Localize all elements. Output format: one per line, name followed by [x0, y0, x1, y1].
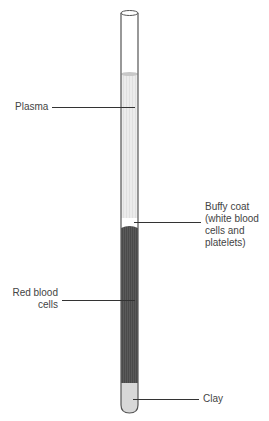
- red-blood-cells-label: Red blood cells: [12, 287, 58, 311]
- plasma-leader-line: [52, 107, 135, 108]
- clay-leader-line: [133, 399, 199, 400]
- red-blood-cells-layer: [121, 226, 138, 383]
- tube-empty-section: [121, 13, 138, 74]
- tube-opening: [121, 11, 138, 16]
- plasma-label: Plasma: [15, 101, 48, 113]
- buffy-coat-label: Buffy coat (white blood cells and platel…: [205, 201, 259, 249]
- plasma-meniscus: [121, 72, 138, 76]
- buffy-coat-leader-line: [134, 222, 201, 223]
- plasma-layer: [121, 74, 138, 218]
- red-blood-cells-leader-line: [62, 300, 135, 301]
- clay-label: Clay: [203, 393, 223, 405]
- clay-layer: [121, 383, 138, 413]
